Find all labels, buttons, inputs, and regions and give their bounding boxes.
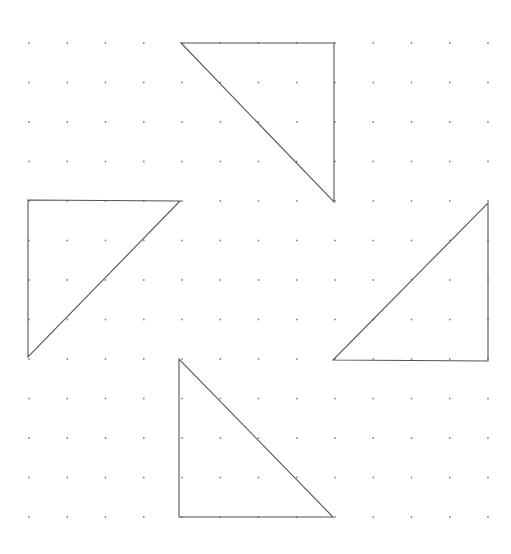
grid-dot [296, 279, 298, 281]
grid-dot [372, 42, 374, 44]
triangle-top [181, 43, 334, 202]
grid-dot [449, 279, 451, 281]
grid-dot [181, 279, 183, 281]
grid-dot [181, 319, 183, 321]
grid-dot [28, 82, 30, 84]
grid-dot [143, 358, 145, 360]
grid-dot [411, 121, 413, 123]
grid-dot [487, 121, 489, 123]
triangle-right [333, 203, 488, 361]
grid-dot [449, 437, 451, 439]
grid-dot [372, 161, 374, 163]
grid-dot [334, 319, 336, 321]
grid-dot [28, 161, 30, 163]
grid-dot [372, 358, 374, 360]
grid-dot [296, 121, 298, 123]
grid-dot [143, 240, 145, 242]
grid-dot [105, 358, 107, 360]
grid-dot [181, 240, 183, 242]
grid-dot [449, 398, 451, 400]
grid-dot [258, 398, 260, 400]
grid-dot [66, 398, 68, 400]
grid-dot [296, 240, 298, 242]
grid-dot [411, 240, 413, 242]
grid-dot [143, 516, 145, 518]
grid-dot [219, 358, 221, 360]
grid-dot [143, 398, 145, 400]
grid-dot [66, 161, 68, 163]
grid-dot [296, 82, 298, 84]
grid-dot [334, 398, 336, 400]
grid-dot [105, 319, 107, 321]
grid-dot [143, 319, 145, 321]
grid-dot [219, 279, 221, 281]
grid-dot [296, 398, 298, 400]
grid-dot [411, 82, 413, 84]
grid-dot [105, 437, 107, 439]
grid-dot [28, 477, 30, 479]
grid-dot [219, 319, 221, 321]
grid-dot [28, 437, 30, 439]
grid-dot [258, 319, 260, 321]
grid-dot [449, 200, 451, 202]
grid-dot [449, 358, 451, 360]
grid-dot [487, 398, 489, 400]
grid-dot [143, 477, 145, 479]
grid-dot [487, 42, 489, 44]
grid-dot [487, 82, 489, 84]
grid-dot [411, 161, 413, 163]
grid-dot [105, 516, 107, 518]
grid-dot [258, 477, 260, 479]
grid-dot [181, 161, 183, 163]
grid-dot [219, 398, 221, 400]
grid-dot [296, 437, 298, 439]
grid-dot [487, 477, 489, 479]
grid-dot [411, 437, 413, 439]
grid-dot [28, 516, 30, 518]
grid-dot [372, 477, 374, 479]
grid-dot [372, 200, 374, 202]
grid-dot [372, 516, 374, 518]
grid-dot [372, 398, 374, 400]
dot-grid-canvas [0, 0, 511, 554]
grid-dot [487, 437, 489, 439]
grid-dot [181, 358, 183, 360]
grid-dot [487, 200, 489, 202]
grid-dot [66, 240, 68, 242]
grid-dot [449, 477, 451, 479]
grid-dot [258, 82, 260, 84]
grid-dot [296, 477, 298, 479]
grid-dot [105, 82, 107, 84]
grid-dot [219, 121, 221, 123]
grid-dot [28, 121, 30, 123]
grid-dot [372, 82, 374, 84]
grid-dot [334, 279, 336, 281]
triangle-bottom [179, 359, 333, 517]
grid-dot [334, 240, 336, 242]
grid-dot [181, 82, 183, 84]
grid-dot [258, 240, 260, 242]
grid-dot [143, 161, 145, 163]
grid-dot [219, 200, 221, 202]
grid-dot [28, 42, 30, 44]
grid-dot [258, 358, 260, 360]
grid-dot [372, 240, 374, 242]
grid-dot [105, 477, 107, 479]
grid-dot [334, 477, 336, 479]
grid-dot [66, 82, 68, 84]
grid-dot [411, 398, 413, 400]
grid-dot [334, 437, 336, 439]
grid-dot [258, 279, 260, 281]
grid-dot [66, 358, 68, 360]
grid-dot [372, 121, 374, 123]
grid-dot [143, 82, 145, 84]
grid-dot [66, 121, 68, 123]
grid-dot [66, 437, 68, 439]
grid-dot [487, 516, 489, 518]
grid-dot [219, 240, 221, 242]
grid-dot [66, 319, 68, 321]
grid-dot [105, 398, 107, 400]
grid-dot [334, 516, 336, 518]
grid-dot [105, 121, 107, 123]
grid-dot [181, 121, 183, 123]
